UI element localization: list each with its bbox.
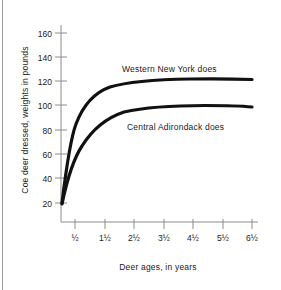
series-line-western-new-york xyxy=(62,79,252,203)
x-tick-label-5-5: 5½ xyxy=(211,233,235,243)
deer-weight-line-chart: 160 140 120 100 80 60 40 20 ½ 1½ 2½ 3½ 4… xyxy=(0,0,281,290)
x-axis-title: Deer ages, in years xyxy=(58,262,258,272)
series-line-central-adirondack xyxy=(62,106,252,205)
y-axis-title: Coe deer dressed, weights in pounds xyxy=(20,35,30,205)
chart-plot-area xyxy=(0,0,281,290)
x-tick-label-6-5: 6½ xyxy=(240,233,264,243)
series-label-central-adirondack: Central Adirondack does xyxy=(127,122,224,132)
x-tick-label-4-5: 4½ xyxy=(181,233,205,243)
x-tick-label-1-5: 1½ xyxy=(93,233,117,243)
series-label-western-new-york: Western New York does xyxy=(122,64,217,74)
x-tick-label-3-5: 3½ xyxy=(152,233,176,243)
x-tick-label-2-5: 2½ xyxy=(122,233,146,243)
x-axis-ticks xyxy=(75,219,252,229)
x-tick-label-0-5: ½ xyxy=(63,233,87,243)
